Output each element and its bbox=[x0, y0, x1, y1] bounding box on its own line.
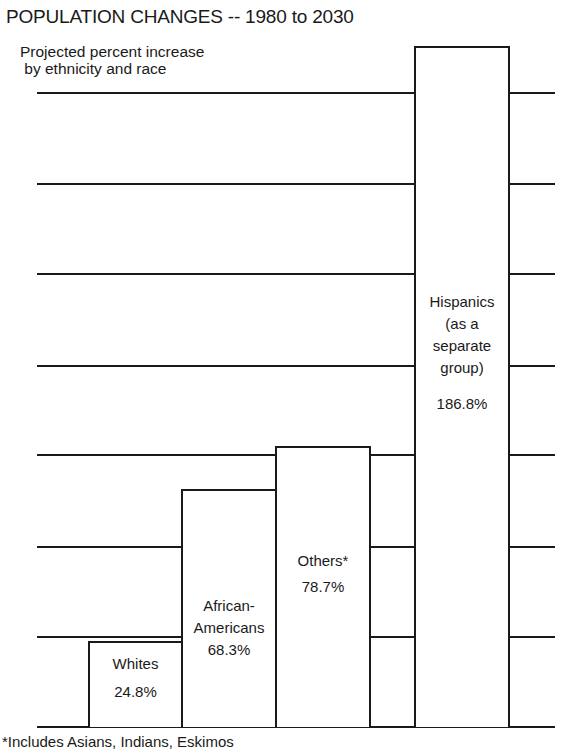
bar-category: (as a bbox=[416, 313, 508, 335]
bar-category: Whites bbox=[90, 653, 181, 675]
bar-value: 186.8% bbox=[416, 393, 508, 415]
bar-value: 78.7% bbox=[277, 576, 369, 598]
bar-value: 68.3% bbox=[183, 639, 275, 661]
bar-whites: Whites 24.8% bbox=[88, 641, 183, 727]
bar-category: separate bbox=[416, 335, 508, 357]
bar-african-americans: African- Americans 68.3% bbox=[181, 489, 277, 727]
bar-category: Americans bbox=[183, 617, 275, 639]
bar-label: African- Americans 68.3% bbox=[183, 595, 275, 661]
bar-category: Others* bbox=[277, 550, 369, 572]
footnote: *Includes Asians, Indians, Eskimos bbox=[2, 733, 234, 750]
bar-others: Others* 78.7% bbox=[275, 446, 371, 727]
bar-category: group) bbox=[416, 357, 508, 379]
bar-label: Hispanics (as a separate group) 186.8% bbox=[416, 291, 508, 415]
bar-label: Whites 24.8% bbox=[90, 653, 181, 703]
bar-value: 24.8% bbox=[90, 681, 181, 703]
chart-subtitle: Projected percent increase by ethnicity … bbox=[20, 43, 204, 77]
bar-label: Others* 78.7% bbox=[277, 550, 369, 598]
bar-category: African- bbox=[183, 595, 275, 617]
chart-title: POPULATION CHANGES -- 1980 to 2030 bbox=[6, 6, 354, 28]
bar-hispanics: Hispanics (as a separate group) 186.8% bbox=[414, 46, 510, 727]
bar-category: Hispanics bbox=[416, 291, 508, 313]
